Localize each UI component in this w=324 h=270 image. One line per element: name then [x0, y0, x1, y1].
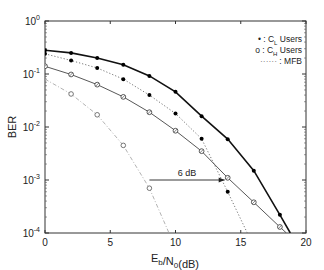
data-point [95, 56, 99, 60]
series-line [45, 79, 169, 233]
y-tick-label: 10-2 [23, 120, 40, 133]
data-point [69, 58, 73, 62]
x-tick-label: 5 [107, 237, 113, 248]
series-0 [43, 48, 290, 233]
legend: • : CL Userso : CH Users······ : MFB [255, 34, 302, 66]
data-point [174, 90, 178, 94]
series-1 [43, 52, 247, 233]
y-axis-label: BER [6, 116, 18, 139]
series-line [45, 50, 290, 233]
data-point [226, 190, 230, 194]
series-2 [43, 64, 287, 233]
series-line [45, 66, 286, 233]
legend-entry: ······ : MFB [260, 56, 302, 66]
data-point [69, 51, 73, 55]
data-point [121, 77, 125, 81]
x-axis-label: Eb/N0(dB) [151, 252, 199, 270]
data-point [43, 52, 47, 56]
x-tick-label: 20 [300, 237, 312, 248]
annotation-layer: 6 dB [149, 168, 224, 183]
series-line [45, 54, 247, 233]
data-point [147, 93, 151, 97]
x-tick-label: 0 [42, 237, 48, 248]
data-point [252, 169, 256, 173]
data-point [200, 137, 204, 141]
y-tick-label: 100 [25, 14, 40, 27]
data-point [174, 111, 178, 115]
ber-chart: 0510152010-410-310-210-1100 6 dB • : CL … [0, 0, 324, 270]
arrow-head-icon [219, 178, 225, 183]
data-point [278, 213, 282, 217]
x-tick-label: 10 [170, 237, 182, 248]
y-tick-label: 10-1 [23, 67, 40, 80]
series-3 [45, 79, 169, 233]
y-tick-label: 10-3 [23, 173, 40, 186]
data-point [69, 92, 74, 97]
annotation-label: 6 dB [178, 168, 197, 178]
x-tick-label: 15 [235, 237, 247, 248]
data-point [95, 66, 99, 70]
data-point [226, 137, 230, 141]
series-layer [43, 48, 291, 233]
data-point [95, 112, 100, 117]
data-point [147, 186, 152, 191]
data-point [200, 114, 204, 118]
y-tick-label: 10-4 [23, 226, 40, 239]
data-point [121, 143, 126, 148]
data-point [147, 74, 151, 78]
data-point [121, 63, 125, 67]
data-point [43, 48, 47, 52]
